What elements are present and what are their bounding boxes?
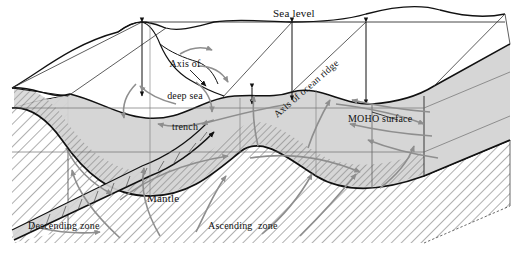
label-trench-line3: trench	[152, 122, 218, 133]
label-mantle: Mantle	[147, 193, 179, 205]
label-trench-line1: Axis of	[152, 59, 218, 70]
diagram-canvas: Sea level Axis of deep sea trench Axis o…	[0, 0, 513, 261]
label-ascending-zone: Ascending zone	[208, 221, 278, 232]
label-moho-surface: MOHO surface	[348, 114, 412, 125]
label-axis-of-deep-sea-trench: Axis of deep sea trench	[152, 38, 218, 154]
label-sea-level: Sea level	[273, 8, 315, 20]
label-trench-line2: deep sea	[152, 91, 218, 102]
sea-level-wireframe	[12, 7, 510, 98]
label-descending-zone: Descending zone	[28, 221, 100, 232]
